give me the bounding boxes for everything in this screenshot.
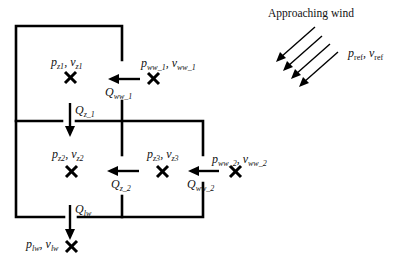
node-label-lw: plw, vlw	[26, 238, 58, 253]
node-marker-ww1	[148, 73, 159, 84]
reference-label: pref, vref	[348, 47, 383, 62]
flow-label-ww2: Qww_2	[187, 178, 214, 193]
flow-label-z1: Qz_1	[75, 104, 95, 119]
flow-label-ww1: Qww_1	[105, 86, 132, 101]
flow-arrow-lw	[65, 205, 75, 240]
building-walls	[16, 26, 203, 217]
zone-label-z3: pz3, vz3	[147, 148, 179, 163]
node-marker-z1	[65, 72, 76, 83]
node-label-ww1: pww_1, vww_1	[141, 57, 196, 72]
flow-label-z2: Qz_2	[111, 178, 131, 193]
flow-label-lw: Qlw	[75, 203, 91, 218]
approaching-wind-title: Approaching wind	[268, 7, 354, 19]
wall-middle-right	[76, 121, 203, 155]
wall-bottom-right	[78, 183, 203, 217]
airflow-network-diagram	[0, 0, 403, 269]
wind-arrows	[276, 27, 338, 87]
flow-arrow-z2	[107, 166, 139, 176]
flow-arrow-ww1	[108, 74, 140, 84]
node-marker-z2	[66, 166, 77, 177]
zone-label-z1: pz1, vz1	[51, 56, 83, 71]
flow-arrow-z1	[65, 103, 75, 137]
node-marker-lw	[66, 241, 77, 252]
node-label-ww2: pww_2, vww_2	[212, 153, 267, 168]
zone-label-z2: pz2, vz2	[52, 148, 84, 163]
node-marker-z3	[157, 166, 168, 177]
